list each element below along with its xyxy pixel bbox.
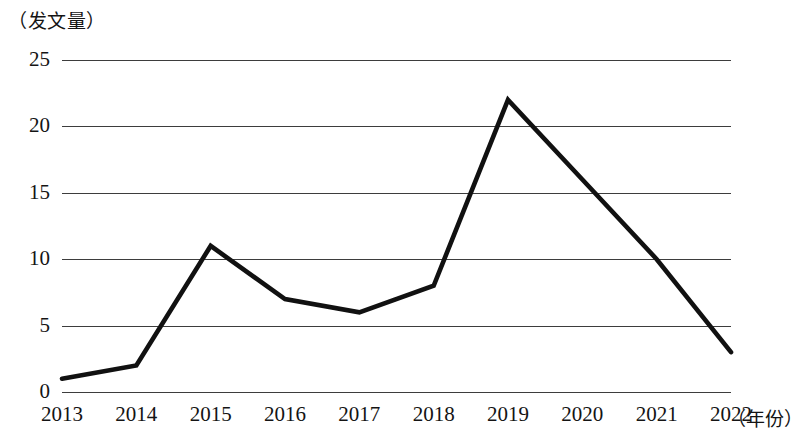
x-tick-label: 2014 bbox=[100, 404, 172, 425]
y-tick-label: 15 bbox=[4, 182, 50, 203]
x-tick-label: 2021 bbox=[621, 404, 693, 425]
x-tick-label: 2017 bbox=[323, 404, 395, 425]
x-tick-label: 2018 bbox=[398, 404, 470, 425]
y-tick-label: 5 bbox=[4, 315, 50, 336]
series-line-publications bbox=[62, 60, 731, 392]
y-tick-label: 25 bbox=[4, 49, 50, 70]
x-tick-label: 2019 bbox=[472, 404, 544, 425]
x-tick-label: 2016 bbox=[249, 404, 321, 425]
x-axis-label: （年份） bbox=[727, 404, 803, 431]
publication-count-line-chart: （发文量） 0510152025 20132014201520162017201… bbox=[0, 0, 810, 432]
y-tick-label: 10 bbox=[4, 248, 50, 269]
y-tick-label: 0 bbox=[4, 381, 50, 402]
y-tick-label: 20 bbox=[4, 115, 50, 136]
gridline bbox=[62, 392, 731, 393]
x-tick-label: 2013 bbox=[26, 404, 98, 425]
plot-area bbox=[62, 60, 731, 392]
y-axis-label: （发文量） bbox=[8, 6, 106, 33]
x-tick-label: 2020 bbox=[546, 404, 618, 425]
x-tick-label: 2015 bbox=[175, 404, 247, 425]
